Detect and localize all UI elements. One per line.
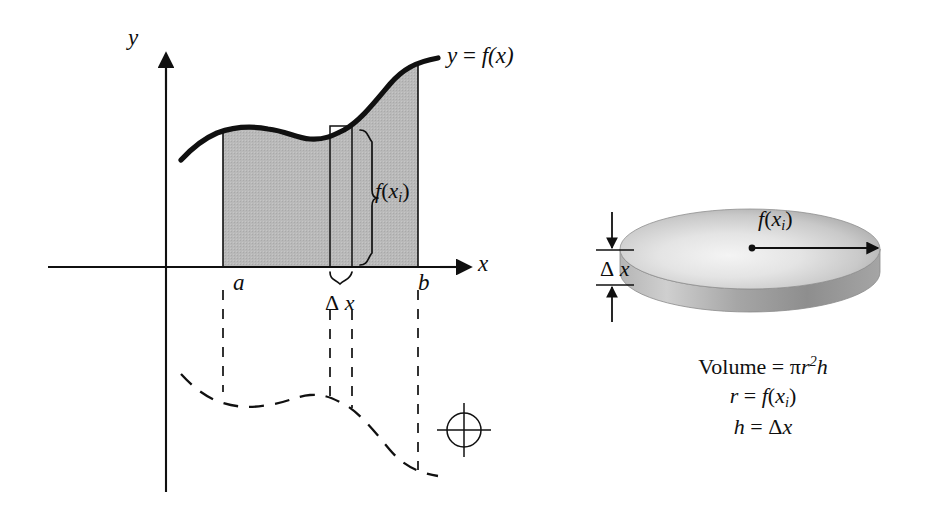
delta-x-label-disk: Δ x — [600, 258, 629, 280]
lower-limit-label: a — [233, 271, 245, 294]
delta-symbol-disk: Δ — [600, 256, 614, 281]
formula-radius-lhs: r — [730, 383, 739, 408]
formula-height-var: x — [782, 414, 792, 439]
formula-volume-eq: = — [766, 354, 789, 379]
disk-volume-formulas: Volume = πr2h r = f(xi) h = Δx — [653, 352, 873, 441]
formula-volume-lhs: Volume — [698, 354, 766, 379]
delta-symbol-plot: Δ — [325, 290, 339, 315]
formula-volume-h: h — [817, 354, 828, 379]
delta-x-variable-plot: x — [345, 290, 355, 315]
f-xi-label-plot: f(xi) — [375, 180, 410, 205]
formula-height-eq: = — [745, 414, 768, 439]
f-xi-label-disk: f(xi) — [758, 208, 793, 233]
delta-x-brace — [330, 272, 352, 284]
upper-limit-label: b — [418, 271, 430, 294]
plot-panel — [48, 54, 470, 492]
x-axis-label: x — [478, 252, 488, 275]
curve-label-lhs: y — [447, 43, 457, 68]
formula-radius-eq: = — [738, 383, 761, 408]
delta-x-label-plot: Δ x — [325, 292, 354, 314]
formula-height-lhs: h — [734, 414, 745, 439]
formula-volume-pi: π — [790, 354, 801, 379]
curve-label-arg: (x) — [488, 43, 514, 68]
fxi-var-disk: x — [771, 206, 781, 231]
formula-height-delta: Δ — [768, 414, 782, 439]
curve-equation-label: y = f(x) — [447, 44, 514, 67]
fxi-var-plot: x — [388, 178, 398, 203]
disk-method-figure: y x y = f(x) a b Δ x f(xi) Δ x f(xi) Vol… — [0, 0, 931, 505]
delta-x-variable-disk: x — [620, 256, 630, 281]
shaded-area-under-curve — [223, 62, 418, 267]
curve-label-eq: = — [457, 43, 481, 68]
formula-radius-var: x — [775, 383, 785, 408]
formula-height: h = Δx — [653, 412, 873, 441]
mirrored-curve — [181, 374, 438, 476]
disk-panel — [596, 209, 880, 322]
formula-volume-exponent: 2 — [809, 353, 816, 369]
formula-volume: Volume = πr2h — [653, 352, 873, 381]
y-axis-label: y — [128, 26, 138, 49]
fxi-close-plot: ) — [402, 178, 409, 203]
formula-radius: r = f(xi) — [653, 381, 873, 412]
printers-registration-mark — [437, 403, 491, 457]
formula-radius-close: ) — [789, 383, 796, 408]
fxi-close-disk: ) — [785, 206, 792, 231]
